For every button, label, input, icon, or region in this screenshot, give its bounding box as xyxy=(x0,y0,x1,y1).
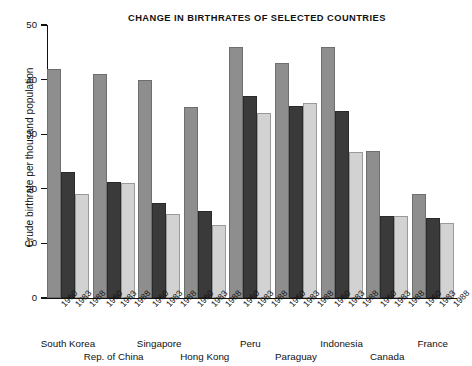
bar-group xyxy=(275,25,317,298)
bar xyxy=(349,152,363,298)
bar xyxy=(93,74,107,298)
bar xyxy=(198,211,212,298)
bar xyxy=(257,113,271,298)
bar xyxy=(380,216,394,298)
bar-group xyxy=(138,25,180,298)
country-label: Singapore xyxy=(114,338,204,349)
y-axis-tick-label: 40 xyxy=(0,75,37,85)
bar xyxy=(243,96,257,298)
bar xyxy=(138,80,152,298)
country-label: Canada xyxy=(342,351,432,362)
bar-group xyxy=(47,25,89,298)
bar xyxy=(61,172,75,298)
bar xyxy=(47,69,61,298)
bar xyxy=(212,225,226,298)
plot-area xyxy=(47,25,457,298)
bar-group xyxy=(412,25,454,298)
y-axis-tick-label: 0 xyxy=(0,293,37,303)
country-label: Indonesia xyxy=(297,338,387,349)
bar-group xyxy=(184,25,226,298)
bar-group xyxy=(366,25,408,298)
bar xyxy=(303,103,317,298)
bar xyxy=(366,151,380,298)
bar xyxy=(107,182,121,298)
bar xyxy=(229,47,243,298)
country-label: Paraguay xyxy=(251,351,341,362)
bar xyxy=(335,111,349,298)
country-label: France xyxy=(388,338,472,349)
y-axis-tick-label: 10 xyxy=(0,238,37,248)
bar xyxy=(440,223,454,298)
chart-container: CHANGE IN BIRTHRATES OF SELECTED COUNTRI… xyxy=(0,0,472,366)
bar xyxy=(412,194,426,298)
bar xyxy=(121,183,135,298)
bar xyxy=(394,216,408,298)
country-label: Rep. of China xyxy=(69,351,159,362)
bar-group xyxy=(321,25,363,298)
bar xyxy=(184,107,198,298)
y-axis-tick-label: 20 xyxy=(0,184,37,194)
bar xyxy=(289,106,303,298)
bar xyxy=(75,194,89,298)
country-label: South Korea xyxy=(23,338,113,349)
country-label: Hong Kong xyxy=(160,351,250,362)
bar-group xyxy=(93,25,135,298)
bar-group xyxy=(229,25,271,298)
bar xyxy=(275,63,289,298)
bar xyxy=(152,203,166,298)
chart-title: CHANGE IN BIRTHRATES OF SELECTED COUNTRI… xyxy=(128,13,428,23)
y-axis-tick-label: 50 xyxy=(0,20,37,30)
bar xyxy=(166,214,180,298)
y-axis-tick-label: 30 xyxy=(0,129,37,139)
country-label: Peru xyxy=(205,338,295,349)
bar xyxy=(321,47,335,298)
bar xyxy=(426,218,440,298)
